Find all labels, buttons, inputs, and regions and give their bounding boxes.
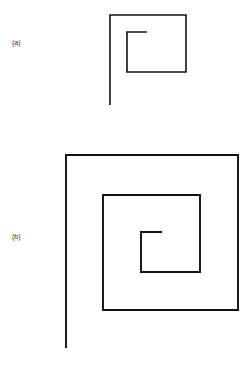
panel-label-a: (a) [12,39,21,46]
spiral-canvas [0,0,249,366]
figure-root: (a) (b) [0,0,249,366]
spiral-path-a [110,15,186,105]
panel-label-b: (b) [12,233,21,240]
spiral-path-b [66,155,238,348]
